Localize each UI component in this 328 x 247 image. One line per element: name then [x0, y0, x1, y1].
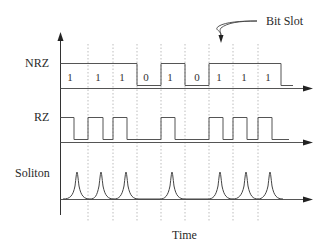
- bit-value: 1: [265, 71, 271, 83]
- rz-time-arrow-icon: [303, 140, 313, 146]
- bit-slot-annotation: Bit Slot: [266, 14, 303, 29]
- rz-waveform: [61, 118, 306, 143]
- row-label-soliton: Soliton: [15, 166, 50, 181]
- bit-value: 1: [119, 71, 125, 83]
- soliton-time-arrow-icon: [303, 197, 313, 203]
- callout-arrow-down-icon: [219, 35, 224, 43]
- bit-slot-callout: [217, 21, 257, 43]
- bit-value: 1: [95, 71, 101, 83]
- bit-value: 0: [143, 71, 149, 83]
- x-axis-label: Time: [172, 228, 197, 243]
- bit-value: 1: [241, 71, 247, 83]
- soliton-waveform: [61, 172, 306, 200]
- bit-value: 1: [67, 71, 73, 83]
- bit-value: 1: [216, 71, 222, 83]
- bit-value: 1: [167, 71, 173, 83]
- vertical-axis: [58, 32, 64, 215]
- row-label-rz: RZ: [34, 110, 49, 125]
- nrz-time-arrow-icon: [303, 86, 313, 92]
- row-label-nrz: NRZ: [25, 56, 49, 71]
- bit-value: 0: [194, 71, 200, 83]
- axis-arrow-up-icon: [58, 32, 64, 41]
